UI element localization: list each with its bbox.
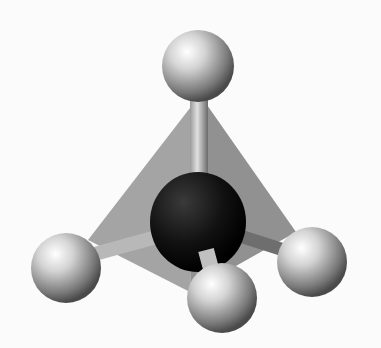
- atom-left: [31, 233, 101, 303]
- atom-top: [162, 30, 234, 102]
- bond-top: [190, 95, 208, 185]
- atom-front: [187, 263, 257, 333]
- central-atom: [150, 172, 246, 272]
- tetrahedron-illustration: [0, 0, 381, 348]
- molecule-model: [0, 0, 381, 348]
- atom-right: [277, 227, 347, 297]
